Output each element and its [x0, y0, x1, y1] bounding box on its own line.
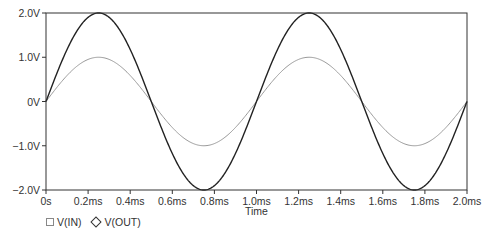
- x-tick-label: 0s: [40, 195, 51, 207]
- x-tick-label: 1.2ms: [284, 195, 313, 207]
- x-tick-label: 2.0ms: [453, 195, 482, 207]
- x-tick-label: 0.4ms: [116, 195, 145, 207]
- y-tick-label: 0V: [27, 96, 40, 108]
- legend-label: V(IN): [57, 216, 82, 228]
- y-tick-label: 2.0V: [18, 7, 40, 19]
- x-axis-title: Time: [245, 205, 268, 217]
- legend-label: V(OUT): [105, 216, 141, 228]
- chart: 2.0V1.0V0V−1.0V−2.0V 0s0.2ms0.4ms0.6ms0.…: [0, 0, 496, 240]
- x-tick-label: 1.4ms: [326, 195, 355, 207]
- x-tick-label: 0.8ms: [200, 195, 229, 207]
- y-axis: 2.0V1.0V0V−1.0V−2.0V: [12, 7, 46, 196]
- y-tick-label: 1.0V: [18, 51, 40, 63]
- legend: V(IN) V(OUT): [46, 216, 141, 228]
- y-tick-label: −1.0V: [12, 140, 40, 152]
- x-tick-label: 0.2ms: [74, 195, 103, 207]
- legend-item-vin: V(IN): [46, 216, 82, 228]
- square-icon: [46, 218, 54, 226]
- x-tick-label: 1.8ms: [411, 195, 440, 207]
- plot-curves: [46, 13, 467, 190]
- diamond-icon: [90, 216, 101, 227]
- y-tick-label: −2.0V: [12, 184, 40, 196]
- legend-item-vout: V(OUT): [90, 216, 141, 228]
- series-vout: [46, 13, 467, 190]
- x-tick-label: 1.6ms: [369, 195, 398, 207]
- x-tick-label: 0.6ms: [158, 195, 187, 207]
